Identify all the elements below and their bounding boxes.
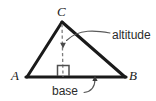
base-label: base	[52, 84, 78, 98]
altitude-arrowhead-icon	[60, 43, 66, 49]
altitude-dashed-line	[62, 24, 63, 77]
altitude-label: altitude	[112, 28, 151, 42]
base-leader-line	[84, 79, 95, 93]
vertex-label-a: A	[10, 68, 19, 83]
vertex-label-b: B	[129, 68, 137, 83]
geometry-figure: A B C altitude base	[0, 0, 156, 101]
triangle-diagram-canvas: A B C altitude base	[0, 0, 156, 101]
vertex-label-c: C	[57, 4, 66, 19]
